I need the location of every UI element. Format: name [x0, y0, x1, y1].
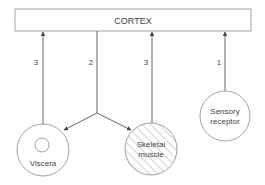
- viscera-inner-circle: [35, 138, 49, 152]
- cortex-label: CORTEX: [114, 16, 151, 26]
- node-viscera: Viscera: [17, 124, 69, 176]
- sensory-label-line2: receptor: [210, 117, 240, 126]
- edge-label: 2: [89, 58, 94, 67]
- edge-viscera-to-cortex: 3: [34, 32, 43, 124]
- edge-label: 3: [144, 58, 149, 67]
- cortex-diagram: CORTEX 3 2 3 1 Viscera Skeletal muscle S…: [0, 0, 265, 185]
- edge-label: 3: [34, 58, 39, 67]
- sensory-label-line1: Sensory: [210, 107, 239, 116]
- viscera-label: Viscera: [30, 159, 57, 168]
- cortex-box: CORTEX: [15, 9, 251, 31]
- edge-skeletal-to-cortex: 3: [144, 32, 152, 123]
- edge-label: 1: [217, 58, 222, 67]
- node-sensory-receptor: Sensory receptor: [200, 91, 250, 141]
- skeletal-label-line2: muscle: [138, 150, 164, 159]
- skeletal-label-line1: Skeletal: [137, 140, 166, 149]
- node-skeletal-muscle: Skeletal muscle: [125, 123, 177, 175]
- edge-sensory-to-cortex: 1: [217, 32, 225, 91]
- edge-cortex-to-effectors: 2: [64, 31, 131, 130]
